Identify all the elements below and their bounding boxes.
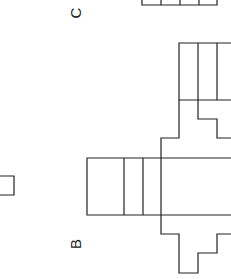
net-diagram	[0, 0, 231, 279]
lower-steps	[161, 215, 231, 273]
label-b: B	[66, 234, 86, 254]
middle-band	[87, 158, 231, 215]
top-strip	[142, 0, 217, 5]
left-square	[0, 176, 14, 195]
label-c: C	[66, 3, 86, 23]
upper-rectangle	[179, 43, 231, 100]
upper-steps	[161, 100, 231, 158]
